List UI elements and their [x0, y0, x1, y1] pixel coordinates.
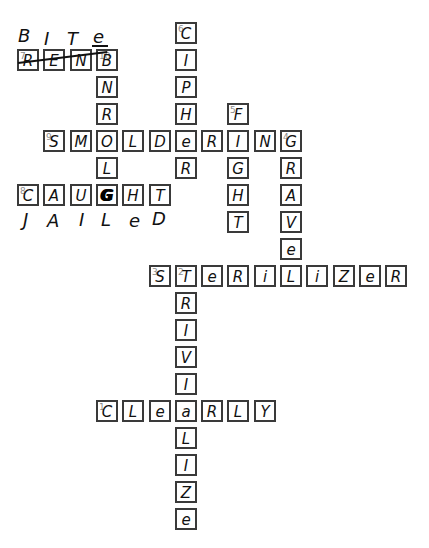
cell-letter: I — [177, 376, 195, 394]
grid-cell[interactable]: A — [43, 184, 65, 206]
cell-letter: O — [98, 133, 116, 151]
grid-cell[interactable]: L — [122, 400, 144, 422]
cell-letter: Y — [256, 403, 274, 421]
grid-cell[interactable]: I — [175, 454, 197, 476]
grid-cell[interactable]: A — [280, 184, 302, 206]
cell-letter: R — [177, 295, 195, 313]
cell-letter: V — [282, 214, 300, 232]
cell-letter: U — [72, 187, 90, 205]
grid-cell[interactable]: G — [227, 157, 249, 179]
grid-cell[interactable]: 2T — [175, 265, 197, 287]
grid-cell[interactable]: I — [227, 130, 249, 152]
grid-cell[interactable]: 6C — [175, 22, 197, 44]
grid-cell[interactable]: R — [280, 157, 302, 179]
handwritten-correction-letter: D — [152, 210, 166, 228]
grid-cell[interactable]: R — [201, 400, 223, 422]
cell-letter: C — [98, 403, 116, 421]
handwritten-correction-letter: I — [79, 211, 84, 229]
grid-cell[interactable]: e — [149, 400, 171, 422]
grid-cell[interactable]: V — [280, 211, 302, 233]
cell-letter: I — [177, 52, 195, 70]
grid-cell[interactable]: I — [175, 49, 197, 71]
grid-cell[interactable]: e — [280, 238, 302, 260]
grid-cell[interactable]: R — [175, 157, 197, 179]
grid-cell[interactable]: e — [175, 508, 197, 530]
cell-letter: T — [229, 214, 247, 232]
grid-cell[interactable]: L — [122, 130, 144, 152]
grid-cell[interactable]: Z — [175, 481, 197, 503]
cell-letter: P — [177, 79, 195, 97]
cell-letter: V — [177, 349, 195, 367]
grid-cell[interactable]: N — [254, 130, 276, 152]
cell-letter: i — [308, 268, 326, 286]
cell-letter: L — [229, 403, 247, 421]
grid-cell[interactable]: R — [175, 292, 197, 314]
cell-letter: H — [177, 106, 195, 124]
grid-cell[interactable]: H — [227, 184, 249, 206]
cell-letter: I — [177, 322, 195, 340]
grid-cell[interactable]: 4G — [280, 130, 302, 152]
grid-cell[interactable]: 1C — [96, 400, 118, 422]
handwritten-correction-letter: I — [44, 30, 49, 48]
cell-letter: L — [282, 268, 300, 286]
grid-cell[interactable]: V — [175, 346, 197, 368]
cell-letter: L — [124, 133, 142, 151]
cell-letter: R — [98, 106, 116, 124]
grid-cell[interactable]: i — [254, 265, 276, 287]
grid-cell[interactable]: e — [175, 130, 197, 152]
cell-letter: R — [229, 268, 247, 286]
cell-letter: Z — [177, 484, 195, 502]
grid-cell[interactable]: i — [306, 265, 328, 287]
crossword-puzzle: 6C7REN10BINPRH5F9SMOLDeRIN4GLRGR8CAUGHTH… — [0, 0, 429, 548]
grid-cell[interactable]: I — [175, 319, 197, 341]
grid-cell[interactable]: P — [175, 76, 197, 98]
cell-letter: e — [361, 268, 379, 286]
grid-cell[interactable]: Z — [333, 265, 355, 287]
grid-cell[interactable]: R — [385, 265, 407, 287]
cell-letter: e — [203, 268, 221, 286]
grid-cell[interactable]: R — [227, 265, 249, 287]
grid-cell[interactable]: I — [175, 373, 197, 395]
grid-cell[interactable]: H — [122, 184, 144, 206]
cell-letter: G — [229, 160, 247, 178]
cell-letter: N — [98, 79, 116, 97]
grid-cell[interactable]: U — [70, 184, 92, 206]
grid-cell[interactable]: T — [227, 211, 249, 233]
cell-letter: Z — [335, 268, 353, 286]
grid-cell[interactable]: 8C — [17, 184, 39, 206]
grid-cell[interactable]: 9S — [43, 130, 65, 152]
cell-letter: H — [229, 187, 247, 205]
grid-cell[interactable]: O — [96, 130, 118, 152]
handwritten-correction-letter: e — [93, 28, 104, 46]
grid-cell[interactable]: e — [359, 265, 381, 287]
grid-cell[interactable]: a — [175, 400, 197, 422]
cell-letter: R — [203, 133, 221, 151]
grid-cell[interactable]: D — [149, 130, 171, 152]
grid-cell[interactable]: L — [280, 265, 302, 287]
grid-cell[interactable]: L — [227, 400, 249, 422]
cell-letter: e — [177, 511, 195, 529]
cell-letter: I — [229, 133, 247, 151]
cell-letter: G — [282, 133, 300, 151]
handwritten-correction-letter: A — [47, 212, 59, 230]
cell-letter: I — [177, 457, 195, 475]
grid-cell[interactable]: R — [96, 103, 118, 125]
cell-letter: S — [151, 268, 169, 286]
grid-cell[interactable]: N — [96, 76, 118, 98]
grid-cell[interactable]: M — [70, 130, 92, 152]
grid-cell[interactable]: H — [175, 103, 197, 125]
cell-letter: R — [177, 160, 195, 178]
grid-cell[interactable]: 5F — [227, 103, 249, 125]
cell-letter: C — [177, 25, 195, 43]
e-underline-stroke — [92, 45, 108, 47]
grid-cell[interactable]: e — [201, 265, 223, 287]
grid-cell[interactable]: 3S — [149, 265, 171, 287]
cell-letter: M — [72, 133, 90, 151]
grid-cell[interactable]: L — [96, 157, 118, 179]
cell-letter: R — [203, 403, 221, 421]
grid-cell[interactable]: G — [96, 184, 118, 206]
grid-cell[interactable]: Y — [254, 400, 276, 422]
grid-cell[interactable]: L — [175, 427, 197, 449]
grid-cell[interactable]: T — [149, 184, 171, 206]
grid-cell[interactable]: R — [201, 130, 223, 152]
